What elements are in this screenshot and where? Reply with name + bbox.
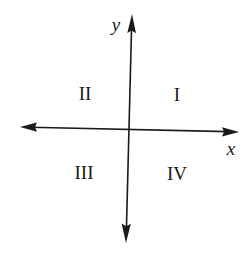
quadrant-diagram: y x I II III IV bbox=[0, 0, 248, 257]
axes-svg bbox=[0, 0, 248, 257]
quadrant-label-i: I bbox=[174, 85, 180, 104]
quadrant-label-iv: IV bbox=[167, 164, 187, 183]
quadrant-label-ii: II bbox=[79, 84, 92, 103]
x-axis-label: x bbox=[227, 139, 235, 158]
y-axis bbox=[126, 26, 131, 230]
x-axis-right-arrow-icon bbox=[222, 127, 239, 136]
quadrant-label-iii: III bbox=[75, 163, 94, 182]
x-axis-left-arrow-icon bbox=[20, 123, 37, 132]
y-axis-label: y bbox=[112, 15, 120, 34]
y-axis-bottom-arrow-icon bbox=[122, 224, 131, 244]
y-axis-top-arrow-icon bbox=[127, 14, 136, 33]
